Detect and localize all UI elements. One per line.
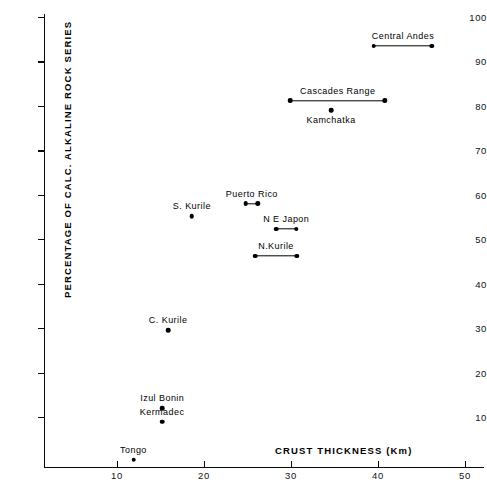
y-tick-label: 60 [453, 189, 487, 200]
y-tick-mark [38, 106, 44, 107]
data-point-label: Kamchatka [307, 115, 356, 125]
data-range-bar [246, 203, 258, 204]
data-point [190, 214, 195, 219]
data-point-label: Central Andes [372, 31, 434, 41]
data-range-bar [374, 45, 432, 46]
y-tick-label: 20 [453, 367, 487, 378]
x-tick-label: 50 [459, 470, 471, 481]
x-tick-mark [291, 461, 292, 467]
y-tick-label: 10 [453, 411, 487, 422]
scatter-chart: PERCENTAGE OF CALC. ALKALINE ROCK SERIES… [0, 0, 487, 495]
y-tick-label: 80 [453, 100, 487, 111]
y-tick-mark [38, 417, 44, 418]
data-point-label: N.Kurile [258, 241, 294, 251]
data-point-label: Cascades Range [300, 86, 375, 96]
y-tick-label: 40 [453, 278, 487, 289]
data-range-bar [290, 100, 385, 101]
data-point [131, 457, 136, 462]
y-axis-line [44, 14, 45, 468]
x-axis-title: CRUST THICKNESS (Km) [275, 445, 413, 456]
x-tick-label: 30 [285, 470, 297, 481]
data-point-label: C. Kurile [149, 315, 188, 325]
data-point-label: Kermadec [140, 407, 185, 417]
data-point [166, 328, 171, 333]
x-tick-mark [117, 461, 118, 467]
y-tick-mark [38, 239, 44, 240]
y-tick-label: 90 [453, 56, 487, 67]
data-point-label: Puerto Rico [226, 189, 278, 199]
data-point-label: Izul Bonin [140, 393, 184, 403]
data-point-label: S. Kurile [173, 201, 211, 211]
data-point-label: Tongo [120, 445, 147, 455]
data-point-label: N E Japon [263, 214, 309, 224]
x-tick-label: 40 [372, 470, 384, 481]
x-tick-label: 20 [198, 470, 210, 481]
y-tick-mark [38, 17, 44, 18]
y-tick-mark [38, 284, 44, 285]
y-tick-label: 30 [453, 323, 487, 334]
x-tick-mark [204, 461, 205, 467]
y-axis-title: PERCENTAGE OF CALC. ALKALINE ROCK SERIES [62, 21, 73, 298]
y-tick-label: 70 [453, 145, 487, 156]
x-axis-line [44, 467, 484, 468]
y-tick-mark [38, 373, 44, 374]
x-tick-label: 10 [111, 470, 123, 481]
x-tick-mark [378, 461, 379, 467]
y-tick-mark [38, 195, 44, 196]
y-tick-mark [38, 61, 44, 62]
data-range-bar [255, 255, 297, 256]
data-point [329, 108, 334, 113]
y-tick-mark [38, 150, 44, 151]
x-tick-mark [465, 461, 466, 467]
y-tick-label: 50 [453, 234, 487, 245]
y-tick-label: 100 [453, 12, 487, 23]
y-tick-mark [38, 328, 44, 329]
data-range-bar [276, 228, 296, 229]
data-point [160, 420, 165, 425]
